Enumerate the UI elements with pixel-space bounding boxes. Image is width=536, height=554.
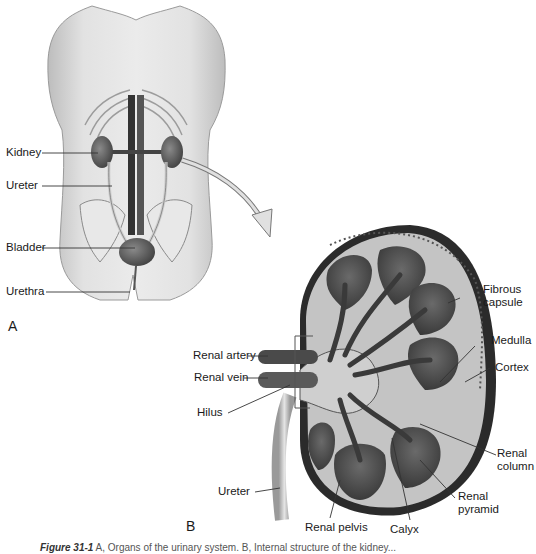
figure-caption: Figure 31-1 A, Organs of the urinary sys… — [40, 542, 396, 553]
figure-number: Figure 31-1 — [40, 542, 93, 553]
label-fibrous-capsule-line1: Fibrous — [483, 283, 521, 296]
label-renal-column-line2: column — [497, 460, 534, 473]
right-kidney — [161, 136, 183, 168]
label-bladder: Bladder — [6, 241, 46, 254]
urinary-system-figure: Kidney Ureter Bladder Urethra A Fibrous … — [0, 0, 536, 554]
bladder — [119, 238, 155, 266]
label-ureter-b: Ureter — [218, 485, 250, 498]
label-ureter-a: Ureter — [6, 179, 38, 192]
label-fibrous-capsule-line2: capsule — [483, 296, 523, 309]
label-medulla: Medulla — [491, 334, 531, 347]
label-calyx: Calyx — [390, 523, 419, 536]
label-renal-pyramid-line2: pyramid — [458, 503, 499, 516]
kidney-cross-section — [258, 225, 496, 520]
label-renal-vein: Renal vein — [194, 371, 248, 384]
label-renal-pelvis: Renal pelvis — [305, 521, 368, 534]
caption-text: A, Organs of the urinary system. B, Inte… — [96, 542, 397, 553]
label-renal-column-line1: Renal — [497, 447, 527, 460]
renal-artery — [258, 350, 318, 364]
illustration — [0, 0, 536, 554]
label-urethra: Urethra — [6, 285, 44, 298]
label-cortex: Cortex — [495, 361, 529, 374]
label-kidney: Kidney — [6, 146, 41, 159]
panel-letter-b: B — [186, 518, 195, 534]
label-renal-pyramid-line1: Renal — [458, 490, 488, 503]
label-renal-artery: Renal artery — [193, 349, 256, 362]
label-hilus: Hilus — [197, 406, 223, 419]
ureter-b — [279, 395, 290, 520]
panel-letter-a: A — [8, 318, 17, 334]
